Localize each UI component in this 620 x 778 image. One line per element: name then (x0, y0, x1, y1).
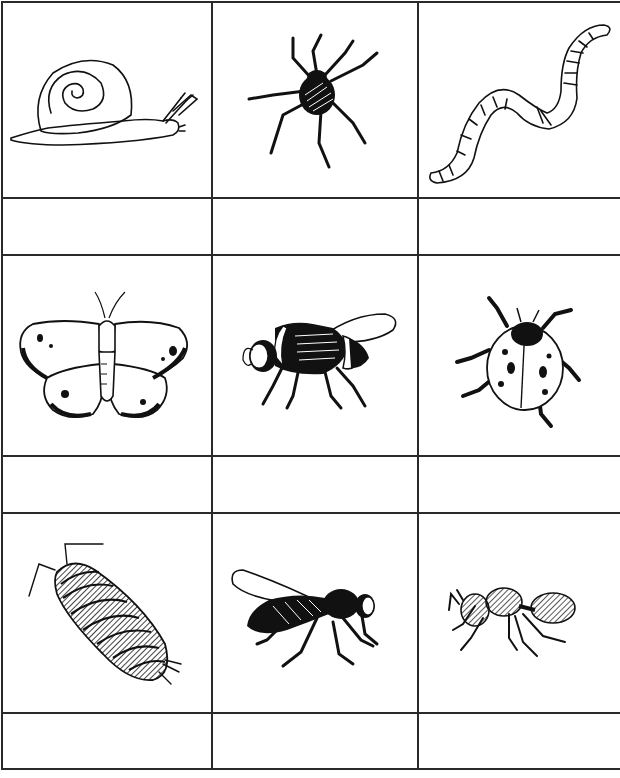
worksheet (0, 0, 620, 778)
worm-label-box[interactable] (419, 199, 620, 254)
grid-line (2, 768, 620, 770)
bumblebee-icon (213, 256, 417, 455)
ant-label-box[interactable] (419, 714, 620, 768)
wasp-label-box[interactable] (213, 714, 417, 768)
butterfly-icon (3, 256, 211, 455)
spider-picture-cell (213, 3, 417, 197)
woodlouse-icon (3, 514, 211, 712)
butterfly-label-box[interactable] (3, 457, 211, 512)
snail-label-box[interactable] (3, 199, 211, 254)
bumblebee-picture-cell (213, 256, 417, 455)
wasp-picture-cell (213, 514, 417, 712)
ant-picture-cell (419, 514, 620, 712)
spider-label-box[interactable] (213, 199, 417, 254)
woodlouse-picture-cell (3, 514, 211, 712)
ladybird-icon (419, 256, 620, 455)
bumblebee-label-box[interactable] (213, 457, 417, 512)
worm-icon (419, 3, 620, 197)
spider-icon (213, 3, 417, 197)
butterfly-picture-cell (3, 256, 211, 455)
ant-icon (419, 514, 620, 712)
snail-icon (3, 3, 211, 197)
ladybird-label-box[interactable] (419, 457, 620, 512)
snail-picture-cell (3, 3, 211, 197)
woodlouse-label-box[interactable] (3, 714, 211, 768)
ladybird-picture-cell (419, 256, 620, 455)
worm-picture-cell (419, 3, 620, 197)
wasp-icon (213, 514, 417, 712)
